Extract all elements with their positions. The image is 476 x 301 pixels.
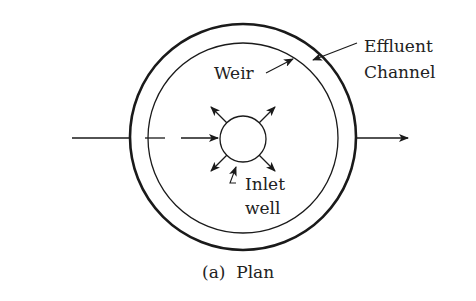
clarifier-plan-diagram: Effluent Channel Weir Inlet well (a) Pla… [0,0,476,301]
effluent-label-line2: Channel [364,62,436,82]
weir-leader [266,59,293,73]
inlet-label-line1: Inlet [245,174,285,194]
weir-label: Weir [214,63,255,83]
figure-caption: (a) Plan [202,262,274,282]
effluent-label-line1: Effluent [364,36,433,56]
inlet-label-line2: well [245,198,281,218]
inlet-well-leader [230,167,236,183]
effluent-channel-leader [313,43,357,60]
